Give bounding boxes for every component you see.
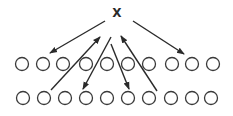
- bottom-row-circle: [143, 92, 156, 105]
- bottom-row-circle: [165, 92, 178, 105]
- x-label: X: [112, 6, 122, 20]
- circle-grid: [16, 58, 220, 105]
- top-row-circle: [57, 58, 70, 71]
- top-row-circle: [80, 58, 93, 71]
- top-row-circle: [166, 58, 179, 71]
- bottom-row-circle: [101, 92, 114, 105]
- arrow: [50, 21, 105, 53]
- bottom-row-circle: [122, 92, 135, 105]
- top-row-circle: [186, 58, 199, 71]
- arrow: [133, 21, 184, 54]
- top-row-circle: [143, 58, 156, 71]
- top-row-circle: [37, 58, 50, 71]
- top-row-circle: [207, 58, 220, 71]
- arrow-group: [50, 21, 184, 91]
- bottom-row-circle: [205, 92, 218, 105]
- bottom-row-circle: [17, 92, 30, 105]
- diagram-canvas: X: [0, 0, 233, 116]
- bottom-row-circle: [59, 92, 72, 105]
- top-row-circle: [16, 58, 29, 71]
- top-row-circle: [122, 58, 135, 71]
- top-row-circle: [101, 58, 114, 71]
- bottom-row-circle: [38, 92, 51, 105]
- bottom-row-circle: [186, 92, 199, 105]
- bottom-row-circle: [80, 92, 93, 105]
